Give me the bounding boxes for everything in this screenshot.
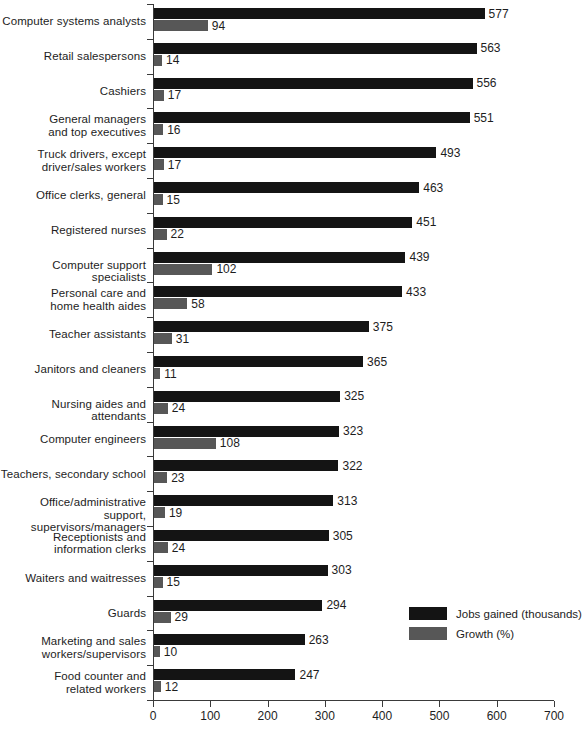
bar-value-jobs-gained: 577 bbox=[489, 8, 509, 20]
bar-value-jobs-gained: 451 bbox=[416, 216, 436, 228]
x-axis-tick-label: 100 bbox=[190, 709, 230, 723]
category-label: Truck drivers, except driver/sales worke… bbox=[0, 148, 146, 173]
bar-jobs-gained bbox=[154, 426, 339, 437]
bar-value-jobs-gained: 263 bbox=[309, 634, 329, 646]
bar-growth-percent bbox=[154, 20, 208, 31]
bar-value-growth-percent: 17 bbox=[168, 89, 181, 101]
bar-growth-percent bbox=[154, 438, 216, 449]
bar-jobs-gained bbox=[154, 182, 419, 193]
bar-jobs-gained bbox=[154, 460, 338, 471]
bar-value-growth-percent: 19 bbox=[169, 507, 182, 519]
y-axis-tick bbox=[147, 317, 153, 318]
bar-value-jobs-gained: 325 bbox=[344, 390, 364, 402]
bar-value-growth-percent: 15 bbox=[167, 576, 180, 588]
legend-item: Growth (%) bbox=[409, 627, 582, 640]
bar-jobs-gained bbox=[154, 495, 333, 506]
bar-jobs-gained bbox=[154, 147, 436, 158]
y-axis-tick bbox=[147, 282, 153, 283]
category-label: Marketing and sales workers/supervisors bbox=[0, 635, 146, 660]
y-axis-tick bbox=[147, 422, 153, 423]
bar-jobs-gained bbox=[154, 217, 412, 228]
y-axis-tick bbox=[147, 491, 153, 492]
bar-growth-percent bbox=[154, 681, 161, 692]
category-label: Teacher assistants bbox=[0, 328, 146, 341]
y-axis-tick bbox=[147, 561, 153, 562]
y-axis-tick bbox=[147, 665, 153, 666]
bar-jobs-gained bbox=[154, 600, 322, 611]
bar-value-jobs-gained: 463 bbox=[423, 182, 443, 194]
x-axis-tick bbox=[210, 701, 211, 707]
bar-growth-percent bbox=[154, 298, 187, 309]
x-axis-tick bbox=[554, 701, 555, 707]
category-label: General managers and top executives bbox=[0, 113, 146, 138]
bar-value-growth-percent: 108 bbox=[220, 437, 240, 449]
y-axis-tick bbox=[147, 456, 153, 457]
bar-value-growth-percent: 11 bbox=[164, 368, 176, 380]
y-axis-tick bbox=[147, 143, 153, 144]
x-axis-tick-label: 300 bbox=[305, 709, 345, 723]
category-label: Office/administrative support, superviso… bbox=[0, 496, 146, 534]
bar-jobs-gained bbox=[154, 321, 369, 332]
bar-value-growth-percent: 31 bbox=[176, 333, 189, 345]
y-axis-line bbox=[153, 4, 154, 700]
bar-growth-percent bbox=[154, 90, 164, 101]
category-label: Computer systems analysts bbox=[0, 15, 146, 28]
y-axis-tick bbox=[147, 596, 153, 597]
bar-value-jobs-gained: 322 bbox=[342, 460, 362, 472]
x-axis-line bbox=[153, 700, 554, 701]
bar-value-jobs-gained: 556 bbox=[477, 77, 497, 89]
y-axis-tick bbox=[147, 630, 153, 631]
bar-jobs-gained bbox=[154, 252, 405, 263]
category-label: Nursing aides and attendants bbox=[0, 398, 146, 423]
category-label: Registered nurses bbox=[0, 224, 146, 237]
y-axis-tick bbox=[147, 178, 153, 179]
category-label: Teachers, secondary school bbox=[0, 468, 146, 481]
chart-legend: Jobs gained (thousands)Growth (%) bbox=[409, 607, 582, 647]
y-axis-tick bbox=[147, 352, 153, 353]
y-axis-tick bbox=[147, 74, 153, 75]
category-label: Guards bbox=[0, 607, 146, 620]
bar-value-jobs-gained: 247 bbox=[299, 669, 319, 681]
category-label: Waiters and waitresses bbox=[0, 572, 146, 585]
x-axis-tick-label: 700 bbox=[534, 709, 574, 723]
bar-growth-percent bbox=[154, 124, 163, 135]
x-axis-tick bbox=[497, 701, 498, 707]
bar-growth-percent bbox=[154, 472, 167, 483]
bar-growth-percent bbox=[154, 507, 165, 518]
bar-value-growth-percent: 29 bbox=[175, 611, 188, 623]
bar-growth-percent bbox=[154, 646, 160, 657]
category-label: Personal care and home health aides bbox=[0, 287, 146, 312]
bar-value-jobs-gained: 375 bbox=[373, 321, 393, 333]
bar-value-growth-percent: 24 bbox=[172, 542, 185, 554]
x-axis-tick bbox=[325, 701, 326, 707]
x-axis-tick-label: 200 bbox=[248, 709, 288, 723]
x-axis-tick-label: 500 bbox=[419, 709, 459, 723]
category-label: Receptionists and information clerks bbox=[0, 531, 146, 556]
y-axis-tick bbox=[147, 108, 153, 109]
bar-jobs-gained bbox=[154, 43, 477, 54]
bar-jobs-gained bbox=[154, 530, 329, 541]
bar-value-growth-percent: 94 bbox=[212, 20, 225, 32]
bar-value-jobs-gained: 305 bbox=[333, 530, 353, 542]
bar-value-jobs-gained: 313 bbox=[337, 495, 357, 507]
bar-value-jobs-gained: 551 bbox=[474, 112, 494, 124]
category-label: Cashiers bbox=[0, 85, 146, 98]
bar-value-growth-percent: 16 bbox=[167, 124, 180, 136]
x-axis-tick bbox=[268, 701, 269, 707]
bar-value-jobs-gained: 493 bbox=[440, 147, 460, 159]
x-axis-tick bbox=[382, 701, 383, 707]
bar-value-jobs-gained: 294 bbox=[326, 599, 346, 611]
bar-value-growth-percent: 12 bbox=[165, 681, 178, 693]
category-label: Computer engineers bbox=[0, 433, 146, 446]
legend-label: Growth (%) bbox=[456, 628, 514, 640]
bar-growth-percent bbox=[154, 612, 171, 623]
bar-jobs-gained bbox=[154, 286, 402, 297]
bar-growth-percent bbox=[154, 368, 160, 379]
y-axis-tick bbox=[147, 387, 153, 388]
category-label: Food counter and related workers bbox=[0, 670, 146, 695]
bar-jobs-gained bbox=[154, 8, 485, 19]
bar-value-jobs-gained: 439 bbox=[409, 251, 429, 263]
category-label: Computer support specialists bbox=[0, 259, 146, 284]
bar-jobs-gained bbox=[154, 669, 295, 680]
